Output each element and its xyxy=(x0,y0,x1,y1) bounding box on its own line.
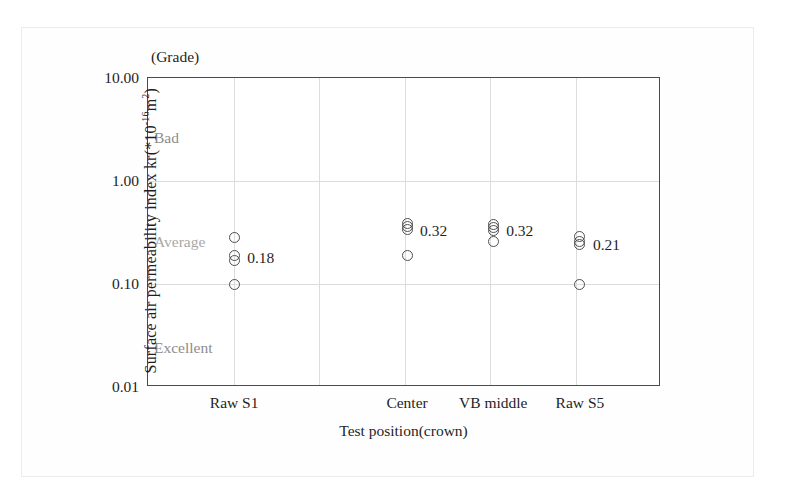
y-axis-tick-label: 0.01 xyxy=(112,378,139,396)
value-label: 0.18 xyxy=(247,249,274,267)
data-point xyxy=(402,224,413,235)
y-axis-tick-label: 10.00 xyxy=(104,69,139,87)
data-point xyxy=(402,250,413,261)
data-point xyxy=(574,239,585,250)
grade-label-average: Average xyxy=(154,233,205,251)
y-axis-tick-label: 0.10 xyxy=(112,275,139,293)
data-point xyxy=(229,279,240,290)
y-axis-tick-label: 1.00 xyxy=(112,172,139,190)
value-label: 0.32 xyxy=(420,222,447,240)
plot-area: BadAverageExcellent 0.180.320.320.21 10.… xyxy=(147,77,660,386)
x-axis-title: Test position(crown) xyxy=(148,422,659,440)
data-point xyxy=(229,255,240,266)
value-label: 0.21 xyxy=(593,236,620,254)
y-axis-title: Surface air permeability index kr(*10-16… xyxy=(140,0,159,491)
grade-label-excellent: Excellent xyxy=(154,339,213,357)
vertical-gridline xyxy=(319,78,320,385)
x-axis-tick-label: VB middle xyxy=(459,394,527,412)
x-axis-tick-label: Raw S5 xyxy=(556,394,605,412)
data-point xyxy=(574,279,585,290)
value-label: 0.32 xyxy=(506,222,533,240)
horizontal-gridline xyxy=(148,181,659,182)
data-point xyxy=(488,236,499,247)
x-axis-tick-label: Raw S1 xyxy=(210,394,259,412)
data-point xyxy=(229,232,240,243)
x-axis-tick-label: Center xyxy=(386,394,427,412)
data-point xyxy=(488,225,499,236)
